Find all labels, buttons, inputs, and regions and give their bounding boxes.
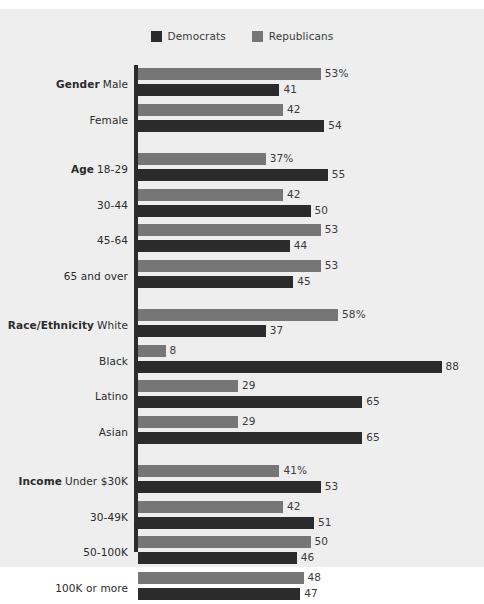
- bar-value-label: 88: [446, 360, 460, 372]
- category-label: Asian: [0, 426, 128, 438]
- chart-legend: Democrats Republicans: [0, 30, 484, 42]
- bar-row: 45-645344: [0, 223, 484, 259]
- bar-democrats: [138, 169, 328, 181]
- category-label: Age18-29: [0, 163, 128, 175]
- bar-value-label: 58%: [342, 308, 366, 320]
- bar-value-label: 55: [332, 168, 346, 180]
- bar-republicans: [138, 380, 238, 392]
- bar-row: Race/EthnicityWhite58%37: [0, 308, 484, 344]
- category-label: 50-100K: [0, 546, 128, 558]
- category-name-label: 30-44: [97, 199, 128, 211]
- bar-row: 100K or more4847: [0, 571, 484, 604]
- bar-republicans: [138, 536, 311, 548]
- chart-panel: Democrats Republicans GenderMale53%41Fem…: [0, 9, 484, 567]
- legend-swatch-democrats: [151, 31, 162, 42]
- bar-value-label: 53: [325, 259, 339, 271]
- bar-democrats: [138, 205, 311, 217]
- legend-entry-republicans: Republicans: [252, 30, 334, 42]
- bar-democrats: [138, 552, 297, 564]
- bar-value-label: 45: [297, 275, 311, 287]
- category-label: 45-64: [0, 234, 128, 246]
- category-label: Female: [0, 114, 128, 126]
- bar-row: 65 and over5345: [0, 259, 484, 295]
- bar-group-gender: GenderMale53%41Female4254: [0, 67, 484, 138]
- bar-value-label: 44: [294, 239, 308, 251]
- bar-value-label: 46: [301, 551, 315, 563]
- bar-democrats: [138, 120, 324, 132]
- bar-republicans: [138, 465, 279, 477]
- category-label: IncomeUnder $30K: [0, 475, 128, 487]
- bar-value-label: 54: [328, 119, 342, 131]
- bar-value-label: 42: [287, 500, 301, 512]
- bar-value-label: 65: [366, 395, 380, 407]
- bar-republicans: [138, 345, 166, 357]
- bar-value-label: 47: [304, 587, 318, 599]
- bar-republicans: [138, 501, 283, 513]
- bar-value-label: 37: [270, 324, 284, 336]
- bar-value-label: 29: [242, 379, 256, 391]
- category-name-label: 18-29: [97, 163, 128, 175]
- bar-row: GenderMale53%41: [0, 67, 484, 103]
- legend-label-republicans: Republicans: [269, 30, 334, 42]
- legend-swatch-republicans: [252, 31, 263, 42]
- group-name-label: Gender: [56, 78, 100, 90]
- bar-republicans: [138, 104, 283, 116]
- bar-row: Female4254: [0, 103, 484, 139]
- bar-row: 30-49K4251: [0, 500, 484, 536]
- category-name-label: Male: [103, 78, 128, 90]
- bar-value-label: 41%: [283, 464, 307, 476]
- bar-row: Latino2965: [0, 379, 484, 415]
- category-label: 100K or more: [0, 582, 128, 594]
- category-name-label: Black: [99, 355, 128, 367]
- category-label: 65 and over: [0, 270, 128, 282]
- bar-row: Age18-2937%55: [0, 152, 484, 188]
- bar-group-race-ethnicity: Race/EthnicityWhite58%37Black888Latino29…: [0, 308, 484, 450]
- bar-value-label: 42: [287, 103, 301, 115]
- category-label: Race/EthnicityWhite: [0, 319, 128, 331]
- legend-entry-democrats: Democrats: [151, 30, 226, 42]
- bar-row: IncomeUnder $30K41%53: [0, 464, 484, 500]
- group-name-label: Race/Ethnicity: [8, 319, 94, 331]
- bar-democrats: [138, 276, 293, 288]
- category-label: Latino: [0, 390, 128, 402]
- bar-republicans: [138, 189, 283, 201]
- category-name-label: 50-100K: [83, 546, 128, 558]
- category-name-label: Female: [89, 114, 128, 126]
- category-name-label: 100K or more: [55, 582, 128, 594]
- bar-democrats: [138, 361, 442, 373]
- category-name-label: Under $30K: [65, 475, 128, 487]
- bar-value-label: 51: [318, 516, 332, 528]
- bar-row: 30-444250: [0, 188, 484, 224]
- bar-republicans: [138, 416, 238, 428]
- category-name-label: 65 and over: [64, 270, 128, 282]
- bar-row: 50-100K5046: [0, 535, 484, 571]
- bar-group-income: IncomeUnder $30K41%5330-49K425150-100K50…: [0, 464, 484, 604]
- bar-value-label: 53: [325, 223, 339, 235]
- bar-republicans: [138, 224, 321, 236]
- category-label: GenderMale: [0, 78, 128, 90]
- category-name-label: 45-64: [97, 234, 128, 246]
- bar-row: Black888: [0, 344, 484, 380]
- category-label: 30-49K: [0, 511, 128, 523]
- bar-democrats: [138, 84, 279, 96]
- bar-democrats: [138, 325, 266, 337]
- bar-republicans: [138, 260, 321, 272]
- bar-value-label: 37%: [270, 152, 294, 164]
- bar-republicans: [138, 309, 338, 321]
- bar-republicans: [138, 572, 304, 584]
- legend-label-democrats: Democrats: [168, 30, 226, 42]
- bar-democrats: [138, 432, 362, 444]
- bar-democrats: [138, 396, 362, 408]
- bar-value-label: 65: [366, 431, 380, 443]
- category-name-label: White: [97, 319, 128, 331]
- bar-group-age: Age18-2937%5530-44425045-64534465 and ov…: [0, 152, 484, 294]
- bar-republicans: [138, 153, 266, 165]
- bar-republicans: [138, 68, 321, 80]
- category-label: 30-44: [0, 199, 128, 211]
- bar-value-label: 53%: [325, 67, 349, 79]
- category-name-label: 30-49K: [90, 511, 128, 523]
- group-name-label: Income: [18, 475, 61, 487]
- bar-value-label: 29: [242, 415, 256, 427]
- category-name-label: Latino: [95, 390, 128, 402]
- bar-democrats: [138, 517, 314, 529]
